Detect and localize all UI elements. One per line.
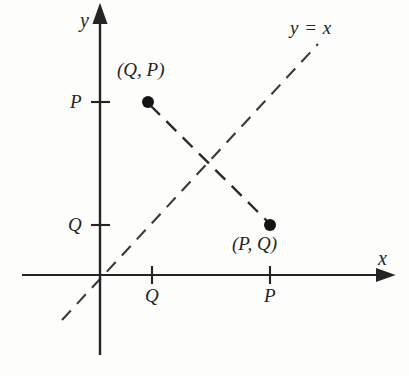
identity-line-label: y = x	[290, 18, 332, 37]
y-tick-label-p: P	[70, 92, 82, 111]
diagram-canvas	[0, 0, 409, 376]
coordinate-diagram: y x P Q Q P (Q, P) (P, Q) y = x	[0, 0, 409, 376]
point-label-qp: (Q, P)	[117, 60, 164, 79]
reflection-segment	[150, 105, 268, 222]
x-tick-label-q: Q	[145, 286, 159, 305]
x-axis-label: x	[378, 248, 387, 268]
point-label-pq: (P, Q)	[232, 234, 277, 253]
point-marker-pq	[264, 219, 276, 231]
x-tick-label-p: P	[264, 286, 276, 305]
y-axis-label: y	[80, 10, 89, 30]
y-tick-label-q: Q	[68, 215, 82, 234]
point-marker-qp	[142, 96, 154, 108]
